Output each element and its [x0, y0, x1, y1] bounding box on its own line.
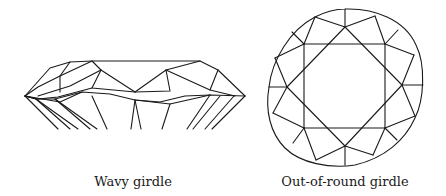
facet-line: [373, 128, 385, 155]
facet-line: [293, 128, 304, 143]
out-of-round-girdle-caption: Out-of-round girdle: [281, 174, 408, 189]
diagram-canvas: [0, 0, 446, 196]
facet-line: [135, 100, 141, 129]
facet-line: [55, 99, 97, 129]
facet-line: [210, 70, 218, 90]
out-of-round-girdle-diamond-drawing: [268, 9, 423, 166]
facet-line: [273, 113, 304, 128]
facet-line: [292, 32, 304, 44]
facet-line: [205, 96, 234, 129]
facet-line: [162, 104, 170, 129]
facet-line: [25, 62, 70, 96]
facet-line: [316, 146, 345, 160]
facet-line: [402, 85, 415, 116]
facet-line: [275, 58, 287, 87]
wavy-girdle-diamond-drawing: [25, 61, 245, 129]
facet-line: [385, 128, 397, 140]
facet-line: [345, 146, 373, 155]
facet-line: [92, 70, 135, 92]
facet-line: [38, 70, 101, 96]
facet-line: [304, 17, 315, 44]
facet-line: [273, 87, 287, 113]
facet-line: [304, 128, 316, 160]
facet-line: [345, 16, 375, 27]
facet-line: [375, 16, 385, 44]
facet-line: [385, 44, 414, 55]
facet-line: [315, 17, 345, 27]
facet-line: [92, 96, 107, 129]
facet-line: [131, 100, 135, 129]
facet-line: [212, 96, 245, 129]
wavy-girdle-caption: Wavy girdle: [94, 174, 172, 189]
facet-line: [166, 70, 235, 96]
facet-line: [385, 30, 398, 44]
facet-line: [275, 44, 304, 58]
facet-line: [402, 55, 414, 85]
